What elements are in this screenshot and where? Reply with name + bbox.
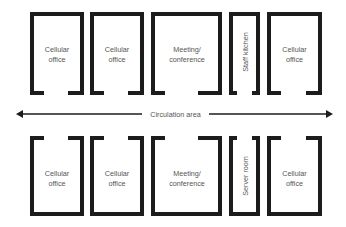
room-bottom-3-label-2: conference — [169, 179, 205, 188]
room-top-4-label: Staff kitchen — [241, 32, 250, 71]
floor-plan-diagram: Circulation area Cellular office Cellula… — [0, 0, 346, 227]
room-top-1-label-2: office — [48, 55, 65, 64]
room-bottom-5-label-2: office — [286, 179, 303, 188]
room-bottom-4-label: Server room — [241, 156, 250, 196]
arrow-head-right-icon — [326, 110, 333, 118]
room-top-3-label-2: conference — [169, 55, 205, 64]
room-top-5-label-1: Cellular — [282, 45, 307, 54]
circulation-label: Circulation area — [150, 110, 200, 119]
room-top-2-label-2: office — [108, 55, 125, 64]
room-bottom-3-label-1: Meeting/ — [173, 169, 201, 178]
room-bottom-2-label-2: office — [108, 179, 125, 188]
arrow-head-left-icon — [16, 110, 23, 118]
room-top-1-label-1: Cellular — [45, 45, 70, 54]
room-top-3-label-1: Meeting/ — [173, 45, 201, 54]
room-bottom-1-label-1: Cellular — [45, 169, 70, 178]
room-bottom-1-label-2: office — [48, 179, 65, 188]
room-top-5-label-2: office — [286, 55, 303, 64]
room-top-2-label-1: Cellular — [105, 45, 130, 54]
room-bottom-5-label-1: Cellular — [282, 169, 307, 178]
room-bottom-2-label-1: Cellular — [105, 169, 130, 178]
